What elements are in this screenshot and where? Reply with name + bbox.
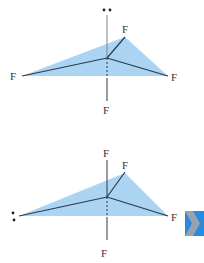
atom-label-back: F (122, 23, 128, 35)
molecule-bottom: F F F F (12, 147, 178, 259)
atom-label-left: F (10, 70, 16, 82)
lone-pair-dot (13, 219, 16, 222)
molecule-top: F F F F (10, 9, 177, 116)
lone-pair-dot (12, 212, 15, 215)
atom-label-bottom: F (101, 247, 107, 259)
lone-pair-dot (103, 9, 106, 12)
molecular-geometry-diagram: F F F F F F F F (0, 0, 204, 263)
atom-label-bottom: F (103, 104, 109, 116)
atom-label-right: F (171, 211, 177, 223)
atom-label-top: F (103, 147, 109, 159)
atom-label-back: F (122, 159, 128, 171)
chevron-right-icon[interactable] (185, 211, 204, 236)
atom-label-right: F (171, 71, 177, 83)
lone-pair-dot (109, 9, 112, 12)
